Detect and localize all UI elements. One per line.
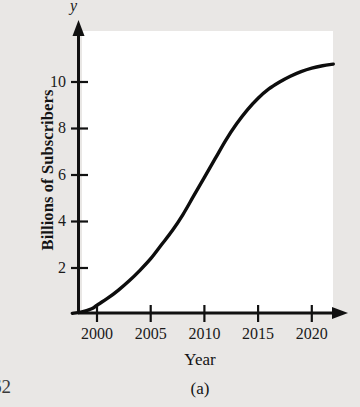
x-tick-label-2005: 2005	[124, 325, 178, 343]
y-tick-label-6: 6	[40, 166, 66, 184]
x-axis	[78, 307, 348, 319]
x-tick-label-2020: 2020	[285, 325, 339, 343]
figure-container: y Billions of Subscribers 10 8 6 4 2 200…	[0, 0, 360, 407]
y-tick-label-2: 2	[40, 259, 66, 277]
figure-caption: (a)	[170, 379, 230, 399]
y-tick-label-10: 10	[40, 73, 66, 91]
x-tick-label-2000: 2000	[70, 325, 124, 343]
y-axis-variable-label: y	[70, 0, 77, 15]
page-folio: 62	[0, 376, 11, 398]
data-series-line	[72, 64, 333, 313]
x-tick-label-2010: 2010	[177, 325, 231, 343]
y-tick-label-8: 8	[40, 119, 66, 137]
x-tick-label-2015: 2015	[231, 325, 285, 343]
y-tick-label-4: 4	[40, 212, 66, 230]
x-axis-title: Year	[150, 350, 250, 370]
